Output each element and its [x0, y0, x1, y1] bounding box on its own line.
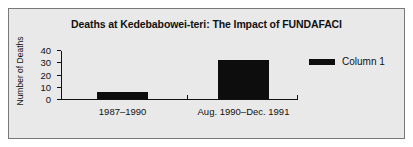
chart-title: Deaths at Kedebabowei-teri: The Impact o… [9, 18, 404, 30]
bar-chart: Deaths at Kedebabowei-teri: The Impact o… [9, 9, 404, 138]
y-axis-label: Number of Deaths [13, 33, 27, 109]
y-tick-label-40: 40 [40, 45, 51, 56]
y-tick-label-20: 20 [40, 69, 51, 80]
bar-aug-1990-dec-1991 [218, 60, 269, 99]
legend-label-column-1: Column 1 [342, 56, 385, 67]
y-tick-0: 0 [57, 99, 61, 100]
y-axis-label-text: Number of Deaths [15, 37, 25, 106]
y-tick-label-30: 30 [40, 57, 51, 68]
x-axis-end-tick [297, 95, 298, 100]
category-divider-tick [187, 95, 188, 100]
y-tick-30: 30 [57, 62, 61, 63]
x-category-label-1: Aug. 1990–Dec. 1991 [198, 106, 290, 117]
y-axis-line [61, 51, 62, 100]
x-axis-line [61, 99, 298, 100]
chart-frame: Deaths at Kedebabowei-teri: The Impact o… [8, 8, 405, 139]
y-tick-40: 40 [57, 50, 61, 51]
y-tick-10: 10 [57, 87, 61, 88]
x-category-label-0: 1987–1990 [99, 106, 147, 117]
legend: Column 1 [309, 56, 385, 67]
y-tick-label-0: 0 [46, 94, 51, 105]
bar-1987-1990 [97, 92, 148, 99]
plot-area: 0 10 20 30 40 1987–1990 Aug. 1990–Dec. 1… [61, 51, 298, 100]
y-tick-label-10: 10 [40, 81, 51, 92]
y-tick-20: 20 [57, 75, 61, 76]
legend-swatch-column-1 [309, 59, 335, 65]
